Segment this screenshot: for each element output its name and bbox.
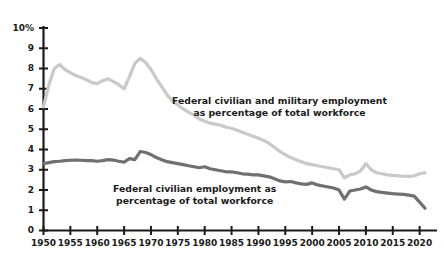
y-tick-label: 1	[0, 206, 34, 215]
annotation-total-line1: Federal civilian and military employment	[172, 95, 387, 107]
y-tick-label: 5	[0, 125, 34, 134]
y-tick-label: 8	[0, 64, 34, 73]
y-tick-label: 3	[0, 165, 34, 174]
y-tick-label: 9	[0, 44, 34, 53]
y-tick-label: 2	[0, 186, 34, 195]
y-tick-label: 10%	[0, 24, 34, 33]
y-tick-label: 0	[0, 226, 34, 235]
y-tick-label: 7	[0, 84, 34, 93]
annotation-civilian-employment: Federal civilian employment as percentag…	[113, 183, 276, 206]
annotation-civilian-line1: Federal civilian employment as	[113, 183, 276, 195]
annotation-total-line2: as percentage of total workforce	[172, 107, 387, 119]
y-tick-label: 6	[0, 105, 34, 114]
chart-container: 012345678910% 19501955196019651970197519…	[0, 0, 444, 266]
x-tick-label: 2020	[400, 239, 440, 248]
y-tick-label: 4	[0, 145, 34, 154]
annotation-total-employment: Federal civilian and military employment…	[172, 95, 387, 118]
annotation-civilian-line2: percentage of total workforce	[113, 195, 276, 207]
line-chart-plot	[0, 0, 444, 266]
